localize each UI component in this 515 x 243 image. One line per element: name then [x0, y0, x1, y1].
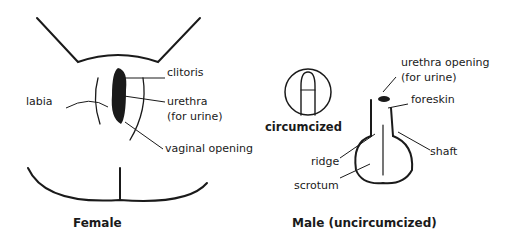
label-urethra: urethra — [167, 95, 208, 108]
label-urethra-note: (for urine) — [167, 110, 223, 123]
label-labia: labia — [26, 95, 53, 108]
label-ridge: ridge — [311, 155, 339, 168]
female-torso-outline — [37, 18, 200, 62]
female-title: Female — [73, 216, 122, 230]
label-foreskin: foreskin — [411, 93, 455, 106]
label-scrotum: scrotum — [294, 179, 339, 192]
label-clitoris: clitoris — [167, 66, 204, 79]
label-urethra-opening-note: (for urine) — [401, 71, 457, 84]
female-legs-outline — [28, 168, 207, 201]
leader-labia — [66, 101, 108, 108]
leader-ridge — [340, 134, 375, 158]
label-vaginal-opening: vaginal opening — [165, 142, 253, 155]
male-title: Male (uncircumcized) — [292, 216, 437, 230]
labia-outer-left — [95, 78, 100, 124]
male-scrotum-outline — [355, 136, 412, 183]
leader-foreskin — [388, 104, 408, 108]
label-shaft: shaft — [430, 145, 457, 158]
leader-urethra-opening — [383, 77, 396, 92]
circumcized-inset — [285, 69, 331, 115]
diagram-drawing — [0, 0, 515, 243]
label-urethra-opening: urethra opening — [401, 56, 490, 69]
leader-vaginal-opening — [125, 122, 163, 149]
male-shaft-outline — [371, 100, 393, 136]
circumcized-label: circumcized — [265, 120, 342, 134]
